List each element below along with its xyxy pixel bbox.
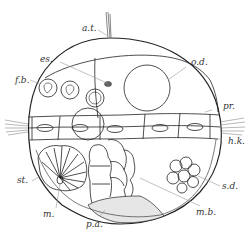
- label-es: es.: [40, 55, 53, 64]
- specimen-drawing: [0, 0, 247, 235]
- label-m: m.: [43, 210, 54, 219]
- label-od: o.d.: [191, 58, 208, 67]
- label-antenna: a.t.: [82, 24, 97, 33]
- leader-sd: [198, 176, 220, 186]
- label-sd: s.d.: [222, 182, 238, 191]
- leader-od: [168, 67, 186, 80]
- label-st: st.: [17, 176, 28, 185]
- leader-at: [98, 30, 108, 36]
- biological-illustration: a.t. es. f.b. o.d. pr. h.k. st. m. s.d. …: [0, 0, 247, 235]
- label-mb: m.b.: [196, 208, 216, 217]
- leader-pr: [205, 110, 212, 112]
- label-pr: pr.: [223, 102, 235, 111]
- leader-es: [60, 62, 107, 83]
- label-pa: p.a.: [86, 220, 103, 229]
- label-hk: h.k.: [228, 137, 245, 146]
- leader-m: [56, 184, 60, 208]
- label-fat-body: f.b.: [15, 76, 30, 85]
